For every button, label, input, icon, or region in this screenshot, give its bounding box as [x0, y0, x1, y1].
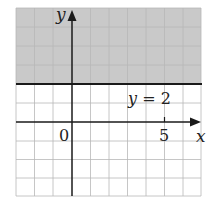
- origin-label: 0: [59, 126, 69, 145]
- inequality-graph: y x 0 5 y = 2: [0, 0, 216, 199]
- x-axis-label: x: [196, 126, 206, 146]
- x-tick-label-5: 5: [159, 126, 169, 145]
- y-axis-label: y: [55, 4, 66, 24]
- line-equation-label: y = 2: [127, 89, 171, 108]
- line-equation-rest: = 2: [137, 89, 171, 108]
